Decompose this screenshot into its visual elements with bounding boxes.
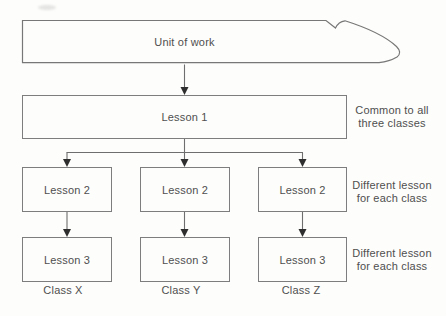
note-common-to-all: Common to all three classes — [350, 104, 434, 130]
scan-artifact — [38, 5, 56, 10]
note-line2: three classes — [358, 117, 425, 129]
lesson3-box-class-z: Lesson 3 — [258, 237, 347, 282]
note-different-lesson-2: Different lesson for each class — [350, 247, 434, 273]
note-line2: for each class — [357, 260, 428, 272]
lesson3-box-class-x: Lesson 3 — [22, 237, 112, 282]
lesson3-label: Lesson 3 — [279, 254, 325, 266]
lesson2-box-class-z: Lesson 2 — [258, 167, 347, 212]
class-x-label: Class X — [18, 284, 108, 296]
arrowhead-icon — [63, 229, 71, 237]
lesson2-label: Lesson 2 — [162, 184, 208, 196]
flowchart-diagram: Unit of work Lesson 1 Lesson 2 Lesson 2 … — [0, 0, 446, 316]
lesson2-label: Lesson 2 — [279, 184, 325, 196]
lesson2-label: Lesson 2 — [44, 184, 90, 196]
note-different-lesson-1: Different lesson for each class — [350, 179, 434, 205]
class-z-label: Class Z — [256, 284, 346, 296]
note-line1: Different lesson — [352, 247, 431, 259]
lesson3-box-class-y: Lesson 3 — [140, 237, 230, 282]
note-line1: Different lesson — [352, 179, 431, 191]
lesson1-label: Lesson 1 — [161, 111, 207, 123]
note-line2: for each class — [357, 192, 428, 204]
arrowhead-icon — [181, 159, 189, 167]
unit-of-work-label: Unit of work — [22, 20, 347, 63]
lesson1-box: Lesson 1 — [22, 95, 347, 139]
arrowhead-icon — [181, 87, 189, 95]
lesson3-label: Lesson 3 — [44, 254, 90, 266]
lesson2-box-class-x: Lesson 2 — [22, 167, 112, 212]
lesson3-label: Lesson 3 — [162, 254, 208, 266]
arrowhead-icon — [63, 159, 71, 167]
arrowhead-icon — [299, 229, 307, 237]
arrowhead-icon — [299, 159, 307, 167]
arrowhead-icon — [181, 229, 189, 237]
lesson2-box-class-y: Lesson 2 — [140, 167, 230, 212]
class-y-label: Class Y — [136, 284, 226, 296]
note-line1: Common to all — [355, 104, 429, 116]
